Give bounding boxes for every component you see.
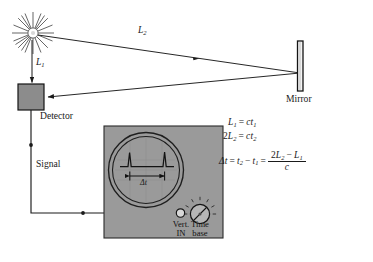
eq2-rhs-sub: 2 [253, 135, 256, 142]
eq1-equals: = [237, 117, 246, 127]
eq3-numerator: 2L2−L1 [268, 150, 306, 162]
physics-diagram-figure: L1 L2 Detector Mirror Signal Δt Vert. IN… [0, 0, 373, 262]
label-scope-delta-t: Δt [140, 179, 147, 187]
mirror-plate [298, 41, 304, 91]
eq3-num-minus: − [285, 150, 294, 160]
label-time-base-line2: base [192, 228, 207, 238]
label-path-l1: L1 [36, 57, 45, 68]
equation-1: L1=ct1 [228, 118, 257, 128]
beam-l2-return [48, 73, 300, 97]
wire-junction-dot-upper [29, 143, 33, 147]
label-path-l1-sub: 1 [41, 61, 44, 68]
label-time-base: Time base [180, 220, 220, 238]
eq3-equals-1: = [227, 156, 236, 166]
eq3-fraction: 2L2−L1c [268, 150, 306, 173]
detector-box [18, 84, 44, 110]
label-signal: Signal [36, 159, 61, 169]
vert-in-jack[interactable] [176, 209, 184, 217]
eq3-num-l1-sub: 1 [299, 153, 302, 160]
wire-junction-dot-lower [81, 211, 85, 215]
label-path-l2: L2 [138, 25, 147, 36]
eq2-equals: = [237, 131, 246, 141]
eq3-denominator: c [268, 162, 306, 173]
equation-2: 2L2=ct2 [223, 132, 256, 142]
light-source-starburst [12, 12, 54, 54]
label-mirror: Mirror [286, 94, 312, 104]
label-detector: Detector [40, 111, 73, 121]
beam-l2-outgoing [38, 35, 300, 73]
eq3-equals-2: = [259, 156, 268, 166]
eq1-rhs-sub: 1 [253, 121, 256, 128]
label-path-l2-sub: 2 [143, 29, 146, 36]
equation-3: Δt=t2−t1=2L2−L1c [219, 150, 306, 173]
